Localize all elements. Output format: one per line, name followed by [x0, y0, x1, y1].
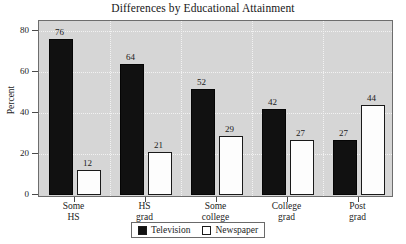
gridline-horizontal	[39, 72, 392, 74]
y-tick-label: 0	[5, 189, 29, 199]
x-tick-label-line1: Some	[63, 201, 85, 211]
x-tick-label-line1: College	[272, 201, 302, 211]
x-tick-label-line1: HS	[138, 201, 150, 211]
gridline-vertical	[181, 21, 183, 196]
bar-value-label: 29	[218, 124, 242, 134]
bar-value-label: 12	[76, 158, 100, 168]
bar-newspaper	[148, 152, 172, 195]
x-tick-label: Collegegrad	[272, 201, 302, 223]
bar-television	[120, 64, 144, 195]
gridline-vertical	[323, 21, 325, 196]
gridline-vertical	[110, 21, 112, 196]
bar-value-label: 21	[147, 140, 171, 150]
bar-television	[191, 89, 215, 195]
chart-title: Differences by Educational Attainment	[0, 2, 406, 14]
bar-newspaper	[290, 140, 314, 195]
bar-value-label: 76	[48, 27, 72, 37]
bar-value-label: 27	[289, 128, 313, 138]
x-tick-label-line2: grad	[272, 212, 302, 223]
y-axis: 020406080	[0, 0, 38, 244]
x-tick-label-line1: Post	[349, 201, 365, 211]
bar-newspaper	[219, 136, 243, 195]
x-tick-label-line2: HS	[63, 212, 85, 223]
bar-television	[262, 109, 286, 195]
x-tick-label: HSgrad	[136, 201, 153, 223]
plot-area	[38, 20, 393, 197]
y-tick-label: 20	[5, 148, 29, 158]
x-tick-label-line1: Some	[205, 201, 227, 211]
y-tick-label: 40	[5, 107, 29, 117]
bar-value-label: 27	[332, 128, 356, 138]
legend-swatch-icon	[138, 226, 147, 235]
x-tick-label: Postgrad	[349, 201, 366, 223]
legend-item-newspaper: Newspaper	[202, 225, 258, 235]
bar-chart: Differences by Educational Attainment Pe…	[0, 0, 406, 244]
gridline-vertical	[252, 21, 254, 196]
legend-swatch-icon	[202, 226, 211, 235]
chart-legend: TelevisionNewspaper	[131, 222, 265, 238]
bar-newspaper	[77, 170, 101, 195]
x-tick-label: SomeHS	[63, 201, 85, 223]
y-tick-label: 60	[5, 66, 29, 76]
gridline-horizontal	[39, 31, 392, 33]
y-tick-label: 80	[5, 25, 29, 35]
bar-value-label: 52	[190, 77, 214, 87]
bar-value-label: 42	[261, 97, 285, 107]
bar-value-label: 64	[119, 52, 143, 62]
bar-value-label: 44	[360, 93, 384, 103]
legend-label: Newspaper	[215, 225, 258, 235]
x-tick-label: Somecollege	[202, 201, 229, 223]
x-tick-label-line2: grad	[349, 212, 366, 223]
gridline-horizontal	[39, 113, 392, 115]
bar-newspaper	[361, 105, 385, 195]
bar-television	[333, 140, 357, 195]
bar-television	[49, 39, 73, 195]
legend-label: Television	[151, 225, 190, 235]
legend-item-television: Television	[138, 225, 190, 235]
